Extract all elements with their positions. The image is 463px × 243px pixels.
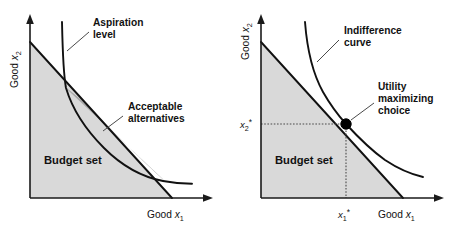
- x-star-mark: *: [347, 207, 351, 217]
- y-axis-label: Good x2: [9, 51, 23, 88]
- x-axis-label: Good x1: [378, 209, 415, 223]
- y-axis-label-sub: 2: [14, 51, 23, 55]
- utility-maximizing-choice-leader: [351, 103, 374, 120]
- panel-utility-maximizing: Indifference curve Utility maximizing ch…: [231, 0, 463, 243]
- indifference-curve-leader: [317, 40, 339, 62]
- aspiration-level-label-line1: Aspiration: [93, 17, 143, 28]
- x-axis-arrowhead: [434, 194, 444, 202]
- indifference-curve-label-line1: Indifference: [344, 25, 402, 36]
- y-axis-label-sub: 2: [245, 23, 254, 27]
- x-axis-label: Good x1: [147, 209, 184, 223]
- budget-set-label: Budget set: [44, 154, 102, 166]
- y-axis-arrowhead: [26, 14, 34, 24]
- budget-set-label: Budget set: [275, 154, 333, 166]
- y-axis-arrowhead: [257, 14, 265, 24]
- x-axis-label-prefix: Good: [147, 209, 175, 220]
- x-star-tick-label: x1*: [337, 207, 351, 223]
- acceptable-alternatives-leader: [103, 116, 123, 131]
- panel-aspiration-level: Aspiration level Acceptable alternatives…: [0, 0, 232, 243]
- x-axis-label-sub: 1: [180, 214, 184, 223]
- x-axis-label-sub: 1: [411, 214, 415, 223]
- economics-diagram-figure: Aspiration level Acceptable alternatives…: [0, 0, 463, 243]
- indifference-curve-label-line2: curve: [344, 37, 372, 48]
- utility-maximizing-choice-label-line1: Utility: [378, 81, 407, 92]
- utility-maximizing-choice-label-line2: maximizing: [378, 93, 433, 104]
- aspiration-level-leader: [67, 32, 89, 51]
- utility-maximizing-choice-label-line3: choice: [378, 105, 411, 116]
- y-star-tick-label: x2*: [239, 117, 253, 133]
- aspiration-level-label-line2: level: [93, 29, 116, 40]
- x-axis-label-prefix: Good: [378, 209, 406, 220]
- y-axis-label-prefix: Good: [240, 32, 251, 60]
- utility-maximizing-choice-point: [341, 119, 351, 129]
- x-axis-arrowhead: [203, 194, 213, 202]
- acceptable-alternatives-label-line1: Acceptable: [128, 101, 183, 112]
- y-axis-label: Good x2: [240, 23, 254, 60]
- y-star-mark: *: [249, 117, 253, 127]
- acceptable-alternatives-label-line2: alternatives: [128, 113, 185, 124]
- y-axis-label-prefix: Good: [9, 60, 20, 88]
